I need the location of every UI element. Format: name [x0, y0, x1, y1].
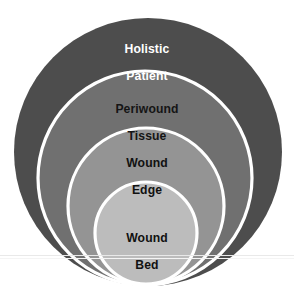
concentric-circles-diagram: Holistic Patient Periwound Tissue Wound … — [0, 0, 294, 301]
diagram-canvas — [0, 0, 294, 301]
ring-circle-wound-bed[interactable] — [95, 182, 197, 284]
